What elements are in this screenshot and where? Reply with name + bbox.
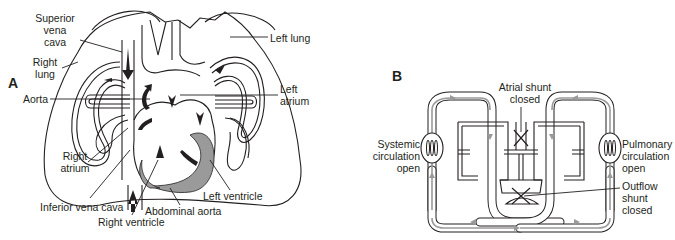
panel-b-leader-lines — [0, 0, 675, 240]
leader-outflow-shunt — [524, 188, 620, 196]
